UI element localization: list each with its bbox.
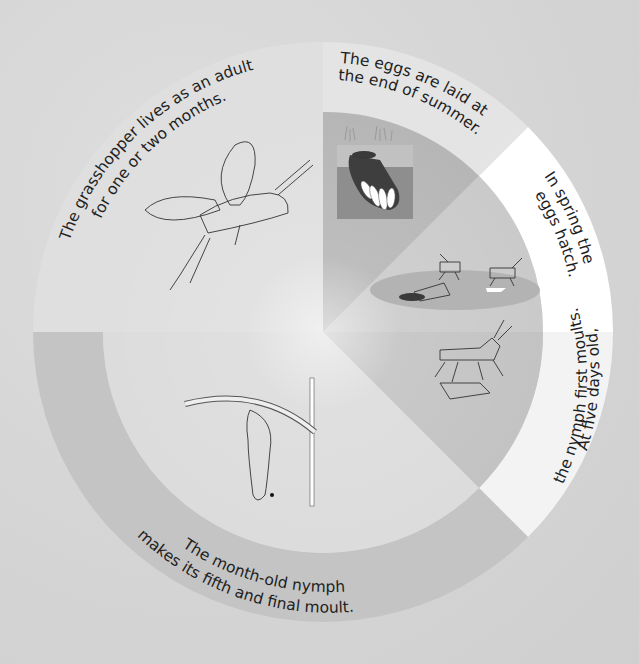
life-cycle-diagram: The eggs are laid at the end of summer. … [0, 0, 639, 664]
life-cycle-wheel: The eggs are laid at the end of summer. … [0, 0, 639, 664]
